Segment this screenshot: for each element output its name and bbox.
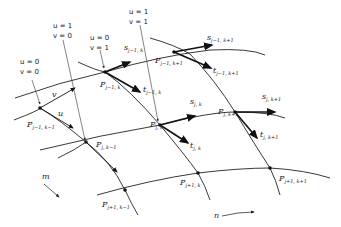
- vector-s-j-1-k: [105, 62, 130, 72]
- svg-text:u = 0: u = 0: [20, 58, 39, 66]
- vector-v-edge: [40, 88, 75, 108]
- node-P-j+1-k: [196, 171, 200, 175]
- pointer-u0v1: [100, 50, 104, 68]
- svg-text:u = 1: u = 1: [53, 22, 72, 30]
- label-P-j-k+1: Pj, k+1: [217, 107, 239, 118]
- label-s-j-k: sj, k: [190, 97, 202, 108]
- annotation-u1-v1: u = 1 v = 1: [129, 8, 148, 26]
- svg-text:u = 1: u = 1: [129, 8, 148, 16]
- label-t-j-1-k+1: tj−1, k+1: [213, 66, 239, 77]
- annotation-u0-v1: u = 0 v = 1: [90, 34, 109, 52]
- label-P-j-k: Pj, k: [149, 120, 163, 131]
- label-P-j+1-k+1: Pj+1, k+1: [278, 174, 307, 185]
- node-P-j+1-k-1: [123, 188, 127, 192]
- label-P-j+1-k: Pj+1, k: [179, 178, 201, 189]
- surface-mesh-diagram: u = 0 v = 0 u = 1 v = 0 u = 0 v = 1 u = …: [0, 0, 341, 227]
- label-t-j-1-k: tj−1, k: [143, 85, 161, 96]
- pointer-u1v0: [63, 40, 85, 140]
- svg-text:v = 1: v = 1: [129, 18, 148, 26]
- arrow-m-direction-icon: [44, 184, 59, 197]
- label-P-j-1-k+1: Pj−1, k+1: [154, 56, 183, 67]
- svg-text:u = 0: u = 0: [90, 34, 109, 42]
- col-curve-k: [78, 62, 210, 200]
- vector-s-j-k: [160, 116, 195, 125]
- svg-text:v = 1: v = 1: [90, 44, 109, 52]
- label-v: v: [52, 90, 57, 99]
- label-t-j-k: tj, k: [190, 141, 201, 152]
- annotation-u1-v0: u = 1 v = 0: [53, 22, 72, 40]
- label-P-j-k-1: Pj, k−1: [95, 140, 117, 151]
- row-curve-j: [40, 112, 285, 150]
- label-s-j-1-k+1: sj−1, k+1: [207, 33, 234, 44]
- label-s-j-k+1: sj, k+1: [262, 92, 281, 103]
- label-t-j-k+1: tj, k+1: [260, 130, 278, 141]
- svg-text:v = 0: v = 0: [53, 32, 72, 40]
- label-s-j-1-k: sj−1, k: [124, 43, 143, 54]
- annotation-u0-v0: u = 0 v = 0: [20, 58, 39, 76]
- node-P-j+1-k+1: [268, 166, 272, 170]
- label-n-direction: n: [214, 211, 219, 220]
- arrow-n-direction-icon: [222, 212, 254, 216]
- label-P-j-1-k-1: Pj−1, k−1: [26, 120, 55, 131]
- label-u: u: [58, 109, 63, 118]
- label-m-direction: m: [42, 172, 50, 181]
- label-P-j+1-k-1: Pj+1, k−1: [101, 200, 130, 211]
- svg-text:v = 0: v = 0: [20, 68, 39, 76]
- vector-t-j-k: [160, 125, 188, 143]
